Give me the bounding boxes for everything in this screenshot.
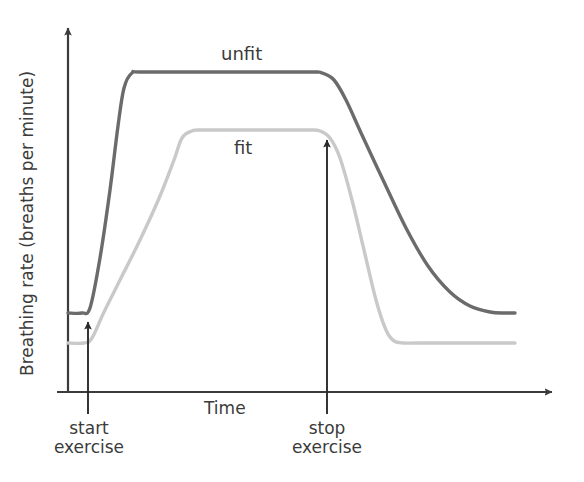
stop-exercise-label: stop exercise (268, 419, 386, 457)
start-exercise-label-line1: start (69, 418, 109, 438)
stop-exercise-label-line2: exercise (268, 438, 386, 457)
start-exercise-label: start exercise (30, 419, 148, 457)
start-exercise-label-line2: exercise (30, 438, 148, 457)
series-line-fit (68, 130, 515, 343)
breathing-rate-chart: Breathing rate (breaths per minute) Time… (0, 0, 584, 482)
chart-plot-area (0, 0, 584, 482)
series-label-unfit: unfit (221, 44, 262, 64)
series-label-fit: fit (234, 138, 252, 158)
y-axis-title: Breathing rate (breaths per minute) (18, 16, 52, 376)
stop-exercise-label-line1: stop (309, 418, 346, 438)
x-axis-title: Time (204, 399, 246, 418)
series-line-unfit (68, 72, 515, 314)
